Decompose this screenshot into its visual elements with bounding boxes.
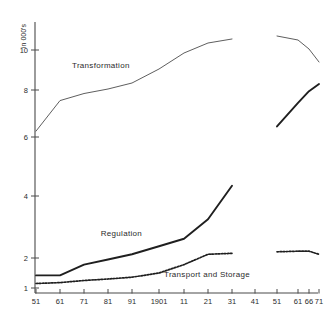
y-tick-label: 8: [24, 86, 28, 95]
x-tick-label: 21: [204, 297, 212, 306]
y-tick-label: 2: [24, 254, 28, 263]
x-tick-label: 61: [294, 297, 302, 306]
y-tick-label: 1: [24, 284, 28, 293]
line-chart: in 000's 1246810 51617181911901112131415…: [0, 0, 326, 314]
x-tick-label: 91: [128, 297, 136, 306]
series-layer: [36, 36, 319, 284]
x-tick-label: 61: [56, 297, 64, 306]
x-tick-label: 11: [180, 297, 188, 306]
series-path-transformation: [277, 36, 319, 62]
y-tick-label: 4: [24, 192, 28, 201]
series-path-transport-and-storage: [36, 253, 232, 283]
x-tick-label: 1901: [151, 297, 168, 306]
x-tick-label: 66: [305, 297, 313, 306]
x-tick-label: 51: [273, 297, 281, 306]
series-label-transport-and-storage: Transport and Storage: [164, 270, 250, 279]
x-tick-label: 51: [32, 297, 40, 306]
y-tick-label: 10: [20, 46, 28, 55]
y-axis-ticks: 1246810: [20, 46, 39, 293]
series-path-transformation: [36, 39, 232, 131]
series-label-regulation: Regulation: [101, 229, 142, 238]
x-tick-label: 71: [315, 297, 323, 306]
x-tick-label: 81: [104, 297, 112, 306]
x-tick-label: 31: [228, 297, 236, 306]
y-tick-label: 6: [24, 133, 28, 142]
x-tick-label: 41: [251, 297, 259, 306]
x-axis-ticks: 516171819119011121314151616671: [32, 289, 323, 306]
series-path-regulation: [277, 84, 319, 126]
series-label-transformation: Transformation: [72, 61, 130, 70]
x-tick-label: 71: [80, 297, 88, 306]
series-path-transport-and-storage: [277, 251, 319, 254]
y-axis-title: in 000's: [20, 24, 27, 48]
chart-container: in 000's 1246810 51617181911901112131415…: [0, 0, 326, 314]
